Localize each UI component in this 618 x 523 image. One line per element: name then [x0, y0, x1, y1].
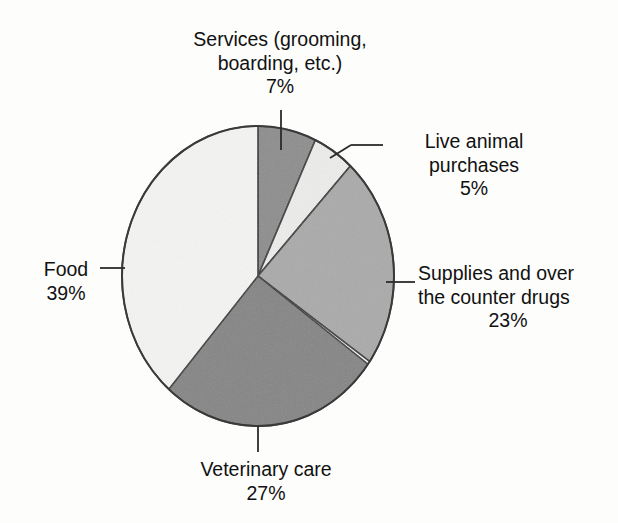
- pie-value-food: 39%: [28, 282, 104, 306]
- pie-label-services-line2: boarding, etc.): [218, 52, 343, 74]
- pie-value-live-animal: 5%: [386, 177, 562, 201]
- pie-label-live-animal-purchases: Live animal purchases 5%: [386, 130, 562, 201]
- pie-label-services-line1: Services (grooming,: [193, 28, 366, 50]
- pie-chart-figure: pet are an let o tions: [0, 0, 618, 523]
- pie-value-supplies: 23%: [418, 309, 598, 333]
- pie-label-supplies-and-otc-drugs: Supplies and over the counter drugs 23%: [418, 262, 614, 333]
- pie-label-services: Services (grooming, boarding, etc.) 7%: [175, 28, 385, 99]
- pie-label-veterinary-care: Veterinary care 27%: [160, 458, 372, 505]
- pie-label-food: Food 39%: [28, 258, 104, 305]
- pie-label-live-animal-line1: Live animal: [425, 130, 524, 152]
- pie-label-veterinary-line1: Veterinary care: [200, 458, 331, 480]
- pie-slices: [122, 126, 394, 426]
- pie-value-services: 7%: [175, 75, 385, 99]
- pie-label-supplies-line1: Supplies and over: [418, 262, 574, 284]
- pie-value-veterinary: 27%: [160, 482, 372, 506]
- pie-label-live-animal-line2: purchases: [429, 154, 519, 176]
- pie-label-supplies-line2: the counter drugs: [418, 286, 570, 308]
- pie-label-food-line1: Food: [44, 258, 88, 280]
